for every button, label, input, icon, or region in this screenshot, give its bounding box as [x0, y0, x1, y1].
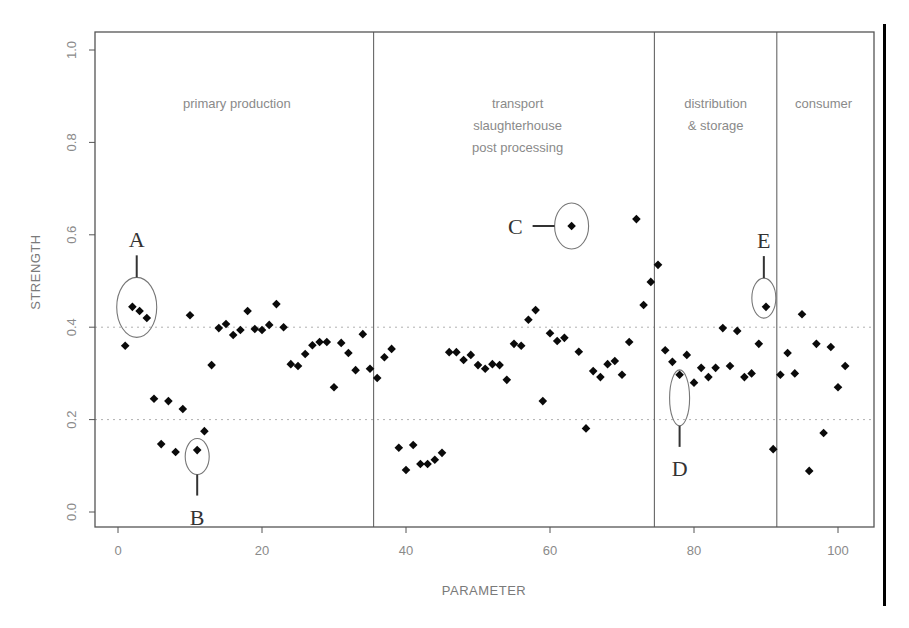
- data-point: [402, 466, 411, 475]
- x-tick-label: 60: [543, 543, 557, 558]
- data-point: [294, 362, 303, 371]
- stage-label-line: primary production: [183, 96, 291, 111]
- data-point: [481, 364, 490, 373]
- y-tick-label: 1.0: [64, 41, 79, 59]
- x-tick-label: 0: [114, 543, 121, 558]
- annotation-letter: C: [508, 214, 523, 239]
- data-point: [265, 321, 274, 330]
- data-point: [488, 360, 497, 369]
- data-point: [596, 373, 605, 382]
- y-tick-label: 0.8: [64, 133, 79, 151]
- data-point: [654, 261, 663, 270]
- data-point: [639, 301, 648, 310]
- stage-label: distribution& storage: [684, 96, 747, 133]
- data-point: [668, 358, 677, 367]
- data-point: [186, 311, 195, 320]
- stage-label-line: transport: [492, 96, 544, 111]
- data-point: [661, 346, 670, 355]
- data-point: [834, 383, 843, 392]
- data-point: [452, 348, 461, 357]
- stage-label-line: post processing: [472, 140, 563, 155]
- data-point: [589, 367, 598, 376]
- annotation-letter: E: [757, 228, 770, 253]
- data-point: [279, 323, 288, 332]
- data-point: [704, 373, 713, 382]
- data-point: [236, 326, 245, 335]
- data-point: [301, 350, 310, 359]
- data-point: [207, 361, 216, 370]
- data-point: [726, 362, 735, 371]
- data-point: [769, 445, 778, 454]
- data-point: [776, 370, 785, 379]
- data-point: [841, 362, 850, 371]
- data-point: [575, 347, 584, 356]
- reference-lines: [95, 327, 874, 419]
- data-point: [747, 369, 756, 378]
- data-point: [567, 222, 576, 231]
- annotation-a: A: [117, 227, 157, 337]
- data-point: [171, 448, 180, 457]
- stage-label-line: distribution: [684, 96, 747, 111]
- data-point: [157, 440, 166, 449]
- data-point: [539, 397, 548, 406]
- data-point: [459, 356, 468, 365]
- data-point: [798, 310, 807, 319]
- data-point: [582, 424, 591, 433]
- y-axis: 0.00.20.40.60.81.0: [64, 41, 95, 521]
- data-point: [344, 349, 353, 358]
- data-point: [647, 278, 656, 287]
- data-point: [135, 307, 144, 316]
- data-point: [560, 334, 569, 343]
- data-point: [553, 337, 562, 346]
- data-point: [517, 341, 526, 350]
- data-point: [215, 324, 224, 333]
- data-point: [733, 327, 742, 336]
- y-tick-label: 0.2: [64, 411, 79, 429]
- data-point: [740, 373, 749, 382]
- page-edge-bar: [883, 24, 886, 606]
- data-point: [611, 357, 620, 366]
- x-tick-label: 20: [255, 543, 269, 558]
- data-point: [272, 300, 281, 309]
- data-point: [531, 306, 540, 315]
- data-point: [423, 460, 432, 469]
- x-axis-title: PARAMETER: [442, 583, 526, 598]
- data-point: [805, 467, 814, 476]
- annotation-letter: B: [190, 505, 205, 530]
- data-point: [812, 340, 821, 349]
- data-point: [366, 364, 375, 373]
- x-tick-label: 100: [827, 543, 849, 558]
- data-point: [150, 395, 159, 404]
- data-point: [683, 351, 692, 360]
- data-point: [308, 341, 317, 350]
- x-tick-label: 80: [687, 543, 701, 558]
- y-tick-label: 0.0: [64, 503, 79, 521]
- data-point: [409, 441, 418, 450]
- x-tick-label: 40: [399, 543, 413, 558]
- data-point: [546, 329, 555, 338]
- y-tick-label: 0.6: [64, 226, 79, 244]
- y-axis-title: STRENGTH: [28, 234, 43, 310]
- data-point: [351, 366, 360, 375]
- data-point: [330, 383, 339, 392]
- stage-label-line: & storage: [688, 118, 744, 133]
- x-axis: 020406080100: [114, 527, 848, 558]
- data-point: [395, 443, 404, 452]
- annotation-c: C: [508, 203, 589, 249]
- stage-label-line: consumer: [795, 96, 853, 111]
- data-point: [510, 340, 519, 349]
- data-point: [128, 303, 137, 312]
- stage-label: transportslaughterhousepost processing: [472, 96, 563, 155]
- annotation-ellipse: [752, 278, 776, 318]
- annotation-ellipse: [185, 439, 209, 475]
- data-point: [467, 351, 476, 360]
- data-point: [200, 427, 209, 436]
- data-point: [783, 349, 792, 358]
- data-point: [474, 361, 483, 370]
- annotation-letter: D: [672, 456, 688, 481]
- stage-labels: primary productiontransportslaughterhous…: [183, 96, 853, 155]
- data-point: [323, 338, 332, 347]
- annotations: ABCDE: [117, 203, 776, 530]
- data-point: [143, 314, 152, 323]
- data-point: [524, 316, 533, 325]
